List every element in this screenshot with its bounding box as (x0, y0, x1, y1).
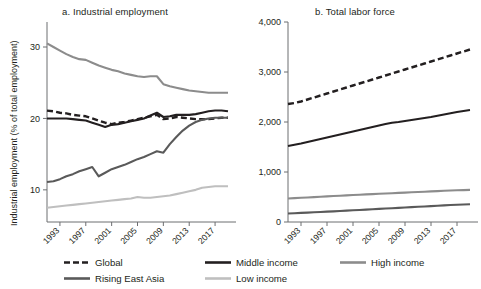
x-tick-label: 2009 (386, 225, 407, 246)
y-tick-label: 20 (30, 114, 40, 124)
y-tick-label: 2,000 (258, 117, 281, 127)
y-tick-label: 30 (30, 42, 40, 52)
series-line-middle-income (288, 110, 470, 146)
legend-swatch-rising-east-asia-icon (64, 272, 90, 285)
y-tick-label: 4,000 (258, 17, 281, 27)
series-line-low-income (288, 204, 470, 213)
x-tick-label: 2005 (360, 225, 381, 246)
x-tick-label: 2001 (92, 225, 113, 246)
x-tick-label: 2013 (412, 225, 433, 246)
legend-label-global: Global (95, 256, 123, 269)
legend-swatch-high-income-icon (340, 256, 366, 269)
chart-legend: Global Rising East Asia Middle income Lo… (0, 255, 481, 289)
legend-swatch-global-icon (64, 256, 90, 269)
legend-swatch-middle-income-icon (205, 256, 231, 269)
y-tick-label: 1,000 (258, 167, 281, 177)
legend-swatch-low-income-icon (205, 272, 231, 285)
x-tick-label: 1993 (41, 225, 62, 246)
figure-container: a. Industrial employment Industrial empl… (0, 0, 481, 289)
x-tick-label: 2013 (170, 225, 191, 246)
legend-item-low-income: Low income (205, 272, 287, 285)
x-tick-label: 2009 (144, 225, 165, 246)
legend-item-rising-east-asia: Rising East Asia (64, 272, 164, 285)
legend-item-middle-income: Middle income (205, 256, 298, 269)
x-tick-label: 1993 (282, 225, 303, 246)
legend-label-low-income: Low income (236, 272, 287, 285)
legend-label-middle-income: Middle income (236, 256, 298, 269)
series-line-high-income (288, 190, 470, 199)
legend-label-rising-east-asia: Rising East Asia (95, 272, 164, 285)
series-line-high-income (47, 43, 228, 92)
series-line-low-income (47, 186, 228, 207)
y-tick-label: 0 (276, 217, 281, 227)
legend-item-high-income: High income (340, 256, 424, 269)
y-tick-label: 10 (30, 185, 40, 195)
x-tick-label: 1997 (67, 225, 88, 246)
series-line-global (288, 50, 470, 105)
x-tick-label: 2017 (438, 225, 459, 246)
x-tick-label: 2005 (118, 225, 139, 246)
x-tick-label: 1997 (308, 225, 329, 246)
panel-a-plot: 1020301993199720012005200920132017 (0, 0, 240, 250)
panel-industrial-employment: a. Industrial employment Industrial empl… (0, 0, 240, 250)
legend-label-high-income: High income (371, 256, 424, 269)
legend-item-global: Global (64, 256, 123, 269)
panel-total-labor-force: b. Total labor force Total labor force (… (240, 0, 481, 250)
series-line-rising-east-asia (47, 118, 228, 182)
x-tick-label: 2017 (196, 225, 217, 246)
panel-b-plot: 01,0002,0003,0004,0001993199720012005200… (240, 0, 481, 250)
y-tick-label: 3,000 (258, 67, 281, 77)
x-tick-label: 2001 (334, 225, 355, 246)
